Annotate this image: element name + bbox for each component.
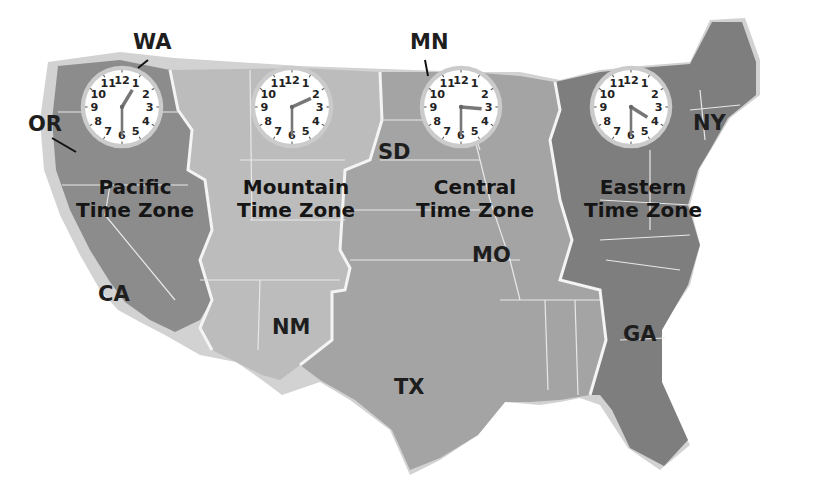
- pacific-zone-label: Pacific Time Zone: [70, 176, 200, 222]
- central-clock: 121234567891011: [418, 64, 504, 150]
- state-label-nm: NM: [272, 315, 310, 339]
- svg-text:8: 8: [94, 115, 102, 128]
- mountain-zone-label: Mountain Time Zone: [226, 176, 366, 222]
- zone-suffix: Time Zone: [578, 199, 708, 222]
- svg-text:4: 4: [312, 115, 320, 128]
- state-label-sd: SD: [378, 140, 411, 164]
- zone-suffix: Time Zone: [226, 199, 366, 222]
- state-label-ca: CA: [98, 282, 130, 306]
- svg-text:1: 1: [302, 77, 310, 90]
- svg-text:12: 12: [453, 74, 469, 87]
- svg-text:12: 12: [114, 74, 130, 87]
- svg-text:7: 7: [104, 125, 112, 138]
- svg-text:8: 8: [264, 115, 272, 128]
- state-label-mn: MN: [410, 30, 448, 54]
- svg-text:1: 1: [471, 77, 479, 90]
- central-zone-label: Central Time Zone: [410, 176, 540, 222]
- eastern-zone-label: Eastern Time Zone: [578, 176, 708, 222]
- svg-text:5: 5: [641, 125, 649, 138]
- svg-text:1: 1: [641, 77, 649, 90]
- svg-text:12: 12: [623, 74, 639, 87]
- svg-text:7: 7: [613, 125, 621, 138]
- svg-text:11: 11: [609, 77, 625, 90]
- state-label-ny: NY: [693, 111, 726, 135]
- svg-text:11: 11: [100, 77, 116, 90]
- svg-text:5: 5: [132, 125, 140, 138]
- svg-text:11: 11: [270, 77, 286, 90]
- svg-text:9: 9: [261, 101, 269, 114]
- svg-text:5: 5: [471, 125, 479, 138]
- pacific-clock: 121234567891011: [79, 64, 165, 150]
- svg-text:9: 9: [430, 101, 438, 114]
- state-label-mo: MO: [472, 243, 511, 267]
- state-label-ga: GA: [623, 322, 657, 346]
- mountain-clock: 121234567891011: [249, 64, 335, 150]
- clock-icon: 121234567891011: [418, 64, 504, 150]
- svg-text:9: 9: [600, 101, 608, 114]
- svg-text:2: 2: [312, 88, 320, 101]
- state-label-or: OR: [28, 112, 62, 136]
- zone-name: Eastern: [578, 176, 708, 199]
- state-label-wa: WA: [133, 30, 171, 54]
- svg-text:4: 4: [651, 115, 659, 128]
- svg-text:7: 7: [443, 125, 451, 138]
- svg-text:2: 2: [481, 88, 489, 101]
- svg-text:2: 2: [651, 88, 659, 101]
- svg-text:3: 3: [655, 101, 663, 114]
- state-label-tx: TX: [394, 375, 425, 399]
- svg-text:12: 12: [284, 74, 300, 87]
- zone-name: Central: [410, 176, 540, 199]
- clock-icon: 121234567891011: [249, 64, 335, 150]
- svg-text:9: 9: [91, 101, 99, 114]
- svg-text:2: 2: [142, 88, 150, 101]
- svg-text:8: 8: [603, 115, 611, 128]
- svg-text:11: 11: [439, 77, 455, 90]
- zone-suffix: Time Zone: [410, 199, 540, 222]
- svg-text:1: 1: [132, 77, 140, 90]
- svg-text:7: 7: [274, 125, 282, 138]
- svg-text:4: 4: [142, 115, 150, 128]
- clock-icon: 121234567891011: [588, 64, 674, 150]
- zone-name: Pacific: [70, 176, 200, 199]
- svg-text:3: 3: [146, 101, 154, 114]
- svg-text:8: 8: [433, 115, 441, 128]
- svg-text:3: 3: [485, 101, 493, 114]
- svg-text:3: 3: [316, 101, 324, 114]
- svg-text:5: 5: [302, 125, 310, 138]
- clock-icon: 121234567891011: [79, 64, 165, 150]
- zone-suffix: Time Zone: [70, 199, 200, 222]
- zone-name: Mountain: [226, 176, 366, 199]
- eastern-clock: 121234567891011: [588, 64, 674, 150]
- svg-text:4: 4: [481, 115, 489, 128]
